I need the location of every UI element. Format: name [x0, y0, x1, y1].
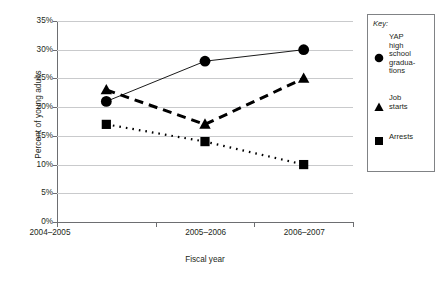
data-point-square [200, 137, 209, 146]
series-plot [57, 21, 353, 222]
y-tick-label: 20% [23, 103, 53, 111]
x-tickmark [156, 222, 157, 227]
data-point-circle [200, 56, 211, 67]
y-tick-label: 15% [23, 132, 53, 140]
x-tick-label: 2006–2007 [249, 228, 359, 237]
series-line-triangle [106, 78, 303, 124]
x-axis-title: Fiscal year [57, 255, 353, 264]
data-point-circle [101, 96, 112, 107]
plot-area [57, 21, 353, 222]
x-axis-line [57, 222, 353, 223]
y-tick-label: 5% [23, 189, 53, 197]
y-axis-tick-labels: 35% 30% 25% 20% 15% 10% 5% 0% [24, 0, 53, 284]
x-tick-label: 2004–2005 [0, 228, 105, 237]
x-tickmark [254, 222, 255, 227]
chart-legend: Key: YAP high school gradua- tions Job s… [367, 14, 435, 172]
data-point-triangle [101, 84, 112, 94]
legend-label: Job starts [389, 94, 433, 111]
data-point-square [299, 160, 308, 169]
chart-figure: Percent of young adults 35% 30% 25% 20% … [0, 0, 443, 284]
x-tickmark [57, 222, 58, 227]
legend-title: Key: [373, 19, 388, 28]
data-point-square [102, 120, 111, 129]
y-tick-label: 10% [23, 161, 53, 169]
y-tick-label: 0% [23, 218, 53, 226]
data-point-circle [298, 44, 309, 55]
x-tick-label: 2005–2006 [151, 228, 261, 237]
y-tick-label: 35% [23, 17, 53, 25]
x-tickmark [353, 222, 354, 227]
square-marker [373, 133, 385, 145]
y-tick-label: 25% [23, 74, 53, 82]
legend-label: Arrests [389, 133, 433, 142]
circle-marker [373, 50, 385, 62]
data-point-triangle [298, 72, 309, 82]
legend-label: YAP high school gradua- tions [389, 33, 433, 76]
triangle-marker [373, 99, 385, 111]
y-tick-label: 30% [23, 46, 53, 54]
